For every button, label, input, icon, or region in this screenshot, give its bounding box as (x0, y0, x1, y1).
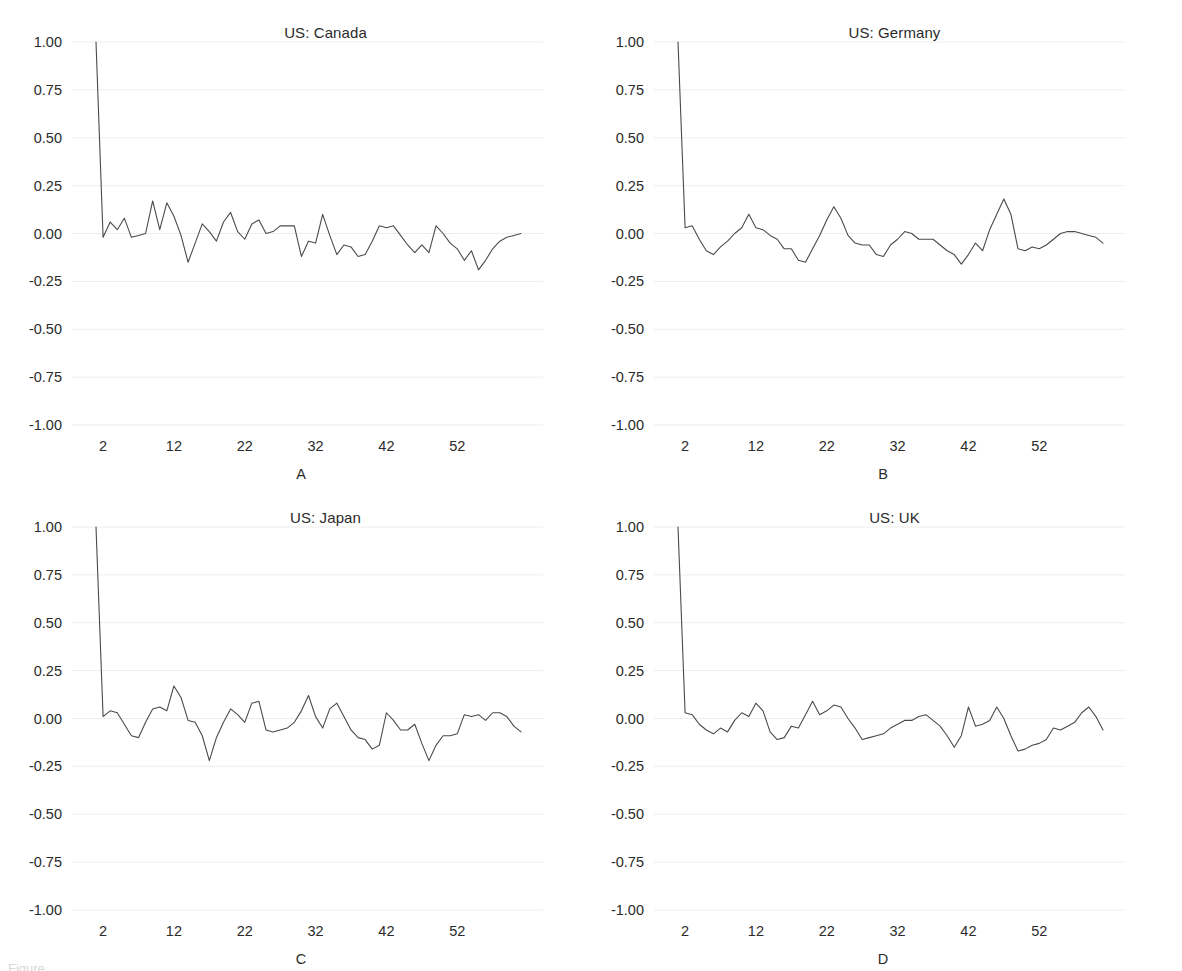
y-tick-label: -0.75 (29, 369, 62, 385)
y-tick-label: -0.50 (29, 321, 62, 337)
y-tick-label: 0.75 (34, 82, 62, 98)
acf-series-line (96, 527, 521, 761)
x-tick-label: 52 (449, 438, 465, 454)
y-tick-label: 1.00 (34, 34, 62, 50)
x-tick-label: 22 (819, 438, 835, 454)
y-tick-label: 0.75 (34, 567, 62, 583)
y-tick-label: -0.50 (611, 321, 644, 337)
y-tick-label: -1.00 (611, 902, 644, 918)
x-tick-label: 22 (237, 438, 253, 454)
y-tick-label: 0.00 (34, 226, 62, 242)
panel-c-plot: 1.000.750.500.250.00-0.25-0.50-0.75-1.00… (0, 485, 591, 970)
y-tick-label: -0.75 (611, 854, 644, 870)
y-tick-label: 0.50 (616, 615, 644, 631)
y-tick-label: -1.00 (29, 417, 62, 433)
y-tick-label: 0.75 (616, 82, 644, 98)
panel-b-plot: 1.000.750.500.250.00-0.25-0.50-0.75-1.00… (591, 0, 1182, 485)
panel-d-plot: 1.000.750.500.250.00-0.25-0.50-0.75-1.00… (591, 485, 1182, 970)
x-tick-label: 2 (99, 438, 107, 454)
panel-d-letter: D (863, 951, 903, 967)
panel-c: US: Japan 1.000.750.500.250.00-0.25-0.50… (0, 485, 591, 970)
y-tick-label: -1.00 (29, 902, 62, 918)
panel-b-letter: B (863, 466, 903, 482)
x-tick-label: 2 (99, 923, 107, 939)
panel-a-letter: A (281, 466, 321, 482)
panel-c-letter: C (281, 951, 321, 967)
y-tick-label: -0.75 (29, 854, 62, 870)
figure-caption-fragment: Figure (8, 961, 45, 971)
x-tick-label: 42 (960, 438, 976, 454)
y-tick-label: 0.25 (616, 663, 644, 679)
y-tick-label: -0.50 (29, 806, 62, 822)
x-tick-label: 42 (378, 438, 394, 454)
acf-series-line (678, 527, 1103, 751)
y-tick-label: 0.00 (616, 226, 644, 242)
y-tick-label: 0.00 (616, 711, 644, 727)
x-tick-label: 52 (1031, 438, 1047, 454)
x-tick-label: 22 (237, 923, 253, 939)
x-tick-label: 32 (308, 438, 324, 454)
y-tick-label: 0.25 (616, 178, 644, 194)
x-tick-label: 52 (1031, 923, 1047, 939)
y-tick-label: -0.25 (611, 758, 644, 774)
panel-d: US: UK 1.000.750.500.250.00-0.25-0.50-0.… (591, 485, 1182, 970)
y-tick-label: 0.50 (616, 130, 644, 146)
x-tick-label: 2 (681, 438, 689, 454)
y-tick-label: 0.25 (34, 178, 62, 194)
y-tick-label: 1.00 (34, 519, 62, 535)
panel-a: US: Canada 1.000.750.500.250.00-0.25-0.5… (0, 0, 591, 485)
y-tick-label: -0.25 (611, 273, 644, 289)
panel-b: US: Germany 1.000.750.500.250.00-0.25-0.… (591, 0, 1182, 485)
x-tick-label: 2 (681, 923, 689, 939)
y-tick-label: -0.25 (29, 273, 62, 289)
x-tick-label: 52 (449, 923, 465, 939)
x-tick-label: 12 (748, 923, 764, 939)
x-tick-label: 12 (166, 923, 182, 939)
y-tick-label: 1.00 (616, 34, 644, 50)
x-tick-label: 22 (819, 923, 835, 939)
x-tick-label: 42 (378, 923, 394, 939)
x-tick-label: 32 (890, 923, 906, 939)
y-tick-label: -0.25 (29, 758, 62, 774)
y-tick-label: -1.00 (611, 417, 644, 433)
y-tick-label: 0.00 (34, 711, 62, 727)
x-tick-label: 12 (748, 438, 764, 454)
y-tick-label: 0.75 (616, 567, 644, 583)
y-tick-label: 0.25 (34, 663, 62, 679)
panel-a-plot: 1.000.750.500.250.00-0.25-0.50-0.75-1.00… (0, 0, 591, 485)
y-tick-label: -0.75 (611, 369, 644, 385)
x-tick-label: 32 (890, 438, 906, 454)
acf-series-line (678, 42, 1103, 264)
acf-figure-grid: US: Canada 1.000.750.500.250.00-0.25-0.5… (0, 0, 1182, 971)
x-tick-label: 12 (166, 438, 182, 454)
y-tick-label: 0.50 (34, 615, 62, 631)
y-tick-label: 1.00 (616, 519, 644, 535)
acf-series-line (96, 42, 521, 270)
x-tick-label: 32 (308, 923, 324, 939)
x-tick-label: 42 (960, 923, 976, 939)
y-tick-label: -0.50 (611, 806, 644, 822)
y-tick-label: 0.50 (34, 130, 62, 146)
